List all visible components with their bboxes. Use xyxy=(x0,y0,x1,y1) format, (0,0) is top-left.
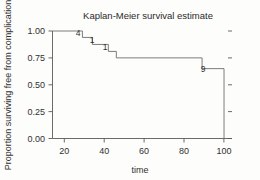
kaplan-meier-figure: Kaplan-Meier survival estimate Proportio… xyxy=(0,0,260,180)
x-axis-title: time xyxy=(131,165,148,175)
y-axis-tick-labels: 1.00 0.75 0.50 0.25 0.00 xyxy=(27,26,45,144)
right-axis-ticks xyxy=(228,31,232,139)
chart-canvas: Kaplan-Meier survival estimate Proportio… xyxy=(0,0,260,180)
y-axis-ticks xyxy=(49,31,53,139)
annotation-label: 9 xyxy=(201,64,206,74)
y-tick-label: 0.00 xyxy=(27,134,45,144)
chart-title: Kaplan-Meier survival estimate xyxy=(83,10,213,21)
x-axis-tick-labels: 20 40 60 80 100 xyxy=(59,146,231,156)
x-tick-label: 60 xyxy=(139,146,149,156)
y-tick-label: 0.25 xyxy=(27,107,45,117)
km-survival-curve xyxy=(53,31,225,139)
x-axis-ticks xyxy=(64,139,224,143)
x-tick-label: 20 xyxy=(59,146,69,156)
y-tick-label: 1.00 xyxy=(27,26,45,36)
x-tick-label: 80 xyxy=(179,146,189,156)
curve-annotations: 4 1 1 9 xyxy=(76,28,206,74)
x-tick-label: 40 xyxy=(99,146,109,156)
annotation-label: 4 xyxy=(76,28,81,38)
annotation-label: 1 xyxy=(90,35,95,45)
y-tick-label: 0.75 xyxy=(27,53,45,63)
y-tick-label: 0.50 xyxy=(27,80,45,90)
annotation-label: 1 xyxy=(103,42,108,52)
y-axis-title: Proportion surviving free from complicat… xyxy=(3,0,13,170)
x-tick-label: 100 xyxy=(216,146,231,156)
